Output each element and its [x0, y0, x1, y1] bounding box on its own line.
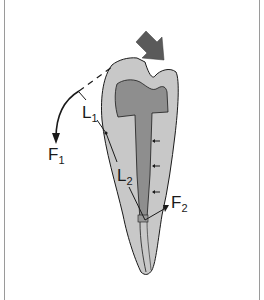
label-F2: F2: [171, 193, 188, 214]
tooth-diagram: L1 F1 L2 F2: [0, 0, 264, 300]
load-arrow: [136, 31, 164, 60]
label-F1: F1: [48, 145, 65, 166]
arrowhead-F1: [52, 133, 60, 144]
force-arrow-F1: [56, 91, 79, 138]
label-L1: L1: [82, 103, 98, 124]
lever-arm-L1-tick: [79, 92, 86, 100]
